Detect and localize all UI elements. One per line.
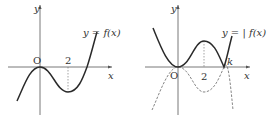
right-y-label: y <box>170 3 177 14</box>
right-curve-label: y = | f(x) | <box>221 27 267 39</box>
right-tick-2: 2 <box>201 71 207 82</box>
right-x-label: x <box>244 70 250 81</box>
right-curve-abs-f <box>153 28 232 67</box>
left-y-label: y <box>33 3 40 14</box>
left-graph: y x O 2 y = f(x) <box>8 3 121 115</box>
left-origin-label: O <box>33 55 41 66</box>
right-graph: y x O 2 k y = | f(x) | <box>145 3 267 115</box>
left-x-label: x <box>108 70 114 81</box>
left-curve-label: y = f(x) <box>82 27 121 38</box>
right-root-k: k <box>227 56 233 67</box>
right-curve-neg-f-dashed <box>152 65 233 110</box>
right-origin-label: O <box>170 70 178 81</box>
left-tick-2: 2 <box>65 55 71 66</box>
left-curve-f <box>17 32 97 101</box>
diagram-canvas: y x O 2 y = f(x) y x O 2 k y = | f(x) | <box>0 0 267 117</box>
